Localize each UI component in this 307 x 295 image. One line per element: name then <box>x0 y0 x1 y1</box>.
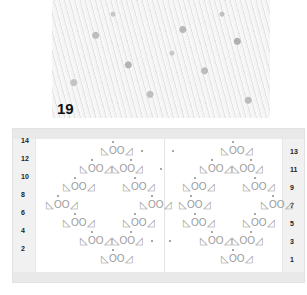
lace-motif: ◺OO◿ <box>221 254 253 264</box>
purl-dot <box>112 141 114 143</box>
row-label-5: 5 <box>290 220 294 227</box>
purl-dot <box>134 177 136 179</box>
purl-dot <box>57 195 59 197</box>
row-label-2: 2 <box>21 245 25 252</box>
purl-dot <box>254 213 256 215</box>
purl-dot <box>190 195 192 197</box>
lace-motif: ◺OO◿ <box>101 146 133 156</box>
lace-motif: ◺OO◿ <box>140 200 172 210</box>
purl-dot <box>254 177 256 179</box>
lace-motif: ◺OO◿ <box>179 200 211 210</box>
purl-dot <box>91 231 93 233</box>
row-label-8: 8 <box>21 191 25 198</box>
row-label-11: 11 <box>290 166 297 173</box>
row-label-14: 14 <box>21 137 29 144</box>
lace-motif: ◺OO◿ <box>221 146 253 156</box>
purl-dot <box>194 177 196 179</box>
row-label-12: 12 <box>21 155 29 162</box>
purl-dot <box>160 168 162 170</box>
row-label-10: 10 <box>21 173 29 180</box>
lace-motif: ◺OO◿ <box>63 218 95 228</box>
purl-dot <box>130 159 132 161</box>
purl-dot <box>169 240 171 242</box>
lace-motif: ◺OO◿ <box>123 218 155 228</box>
row-label-13: 13 <box>290 148 298 155</box>
row-label-9: 9 <box>290 184 294 191</box>
lace-motif: ◺OO◿ <box>101 254 133 264</box>
chart-header-band <box>13 129 304 139</box>
purl-dot <box>250 159 252 161</box>
purl-dot <box>134 213 136 215</box>
purl-dot <box>74 177 76 179</box>
lace-motif: ◺OO◿ <box>183 182 215 192</box>
lace-motif-double: ◺OO◿◺OO◿ <box>80 236 143 246</box>
purl-dot <box>74 213 76 215</box>
purl-dot <box>130 231 132 233</box>
lace-motif: ◺OO◿ <box>243 182 275 192</box>
lace-motif: ◺OO◿ <box>261 200 293 210</box>
row-label-3: 3 <box>290 238 294 245</box>
lace-motif: ◺OO◿ <box>123 182 155 192</box>
row-label-1: 1 <box>290 256 294 263</box>
purl-dot <box>211 231 213 233</box>
row-label-4: 4 <box>21 227 25 234</box>
purl-dot <box>141 150 143 152</box>
purl-dot <box>232 249 234 251</box>
lace-motif: ◺OO◿ <box>46 200 78 210</box>
lace-motif: ◺OO◿ <box>243 218 275 228</box>
lace-motif: ◺OO◿ <box>183 218 215 228</box>
lace-motif-double: ◺OO◿◺OO◿ <box>200 236 263 246</box>
row-label-6: 6 <box>21 209 25 216</box>
purl-dot <box>211 159 213 161</box>
purl-dot <box>272 195 274 197</box>
purl-dot <box>250 231 252 233</box>
purl-dot <box>151 195 153 197</box>
purl-dot <box>194 213 196 215</box>
chart-footer-band <box>13 272 304 282</box>
purl-dot <box>172 150 174 152</box>
lace-motif-double: ◺OO◿◺OO◿ <box>80 164 143 174</box>
purl-dot <box>151 240 153 242</box>
knitting-chart: 14 12 10 8 6 4 2 13 11 9 7 5 3 1 ◺OO◿ ◺O… <box>12 128 305 283</box>
swatch-photo <box>52 0 270 118</box>
purl-dot <box>112 249 114 251</box>
lace-motif-double: ◺OO◿◺OO◿ <box>200 164 263 174</box>
swatch-number: 19 <box>57 100 74 117</box>
lace-motif: ◺OO◿ <box>63 182 95 192</box>
purl-dot <box>232 141 234 143</box>
purl-dot <box>91 159 93 161</box>
